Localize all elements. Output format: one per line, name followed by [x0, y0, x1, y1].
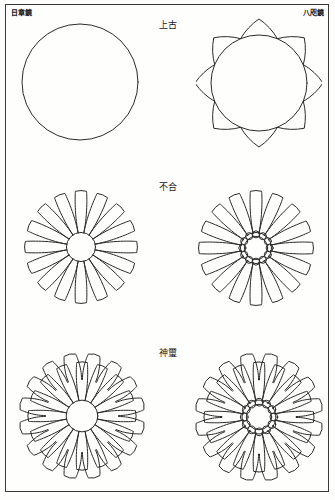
figure-chrysanthemum-solid-center [22, 188, 140, 306]
page-canvas: 日章鏡 八咫鏡 上古 不合 神璽 [0, 0, 335, 500]
figure-eight-point-star [196, 16, 322, 150]
eight-point-star-icon [196, 16, 322, 150]
figure-chrysanthemum-ring-center [196, 188, 316, 308]
double-chrysanthemum-icon [18, 352, 146, 480]
chrysanthemum-ring-icon [196, 188, 316, 308]
figure-double-chrysanthemum-solid-center [18, 352, 146, 480]
plain-circle-icon [18, 18, 142, 148]
figure-plain-circle [18, 18, 142, 148]
figure-double-chrysanthemum-ring-center [194, 352, 324, 482]
corner-label-top-left: 日章鏡 [11, 10, 32, 17]
chrysanthemum-icon [22, 188, 140, 306]
double-chrysanthemum-ring-icon [194, 352, 324, 482]
